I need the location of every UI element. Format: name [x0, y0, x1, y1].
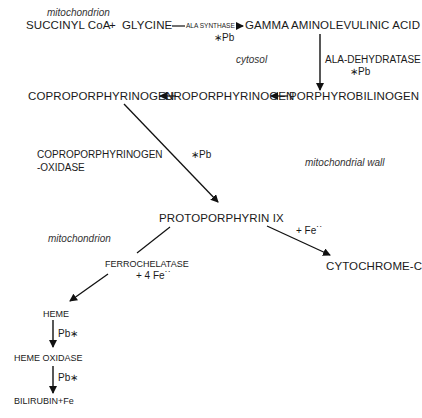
arrow-ferrochelatase-lower — [70, 274, 108, 301]
enzyme-copro-oxidase-line2: -OXIDASE — [37, 163, 85, 173]
inhibitor-ala-dehydratase: ∗Pb — [350, 67, 370, 77]
label-mitochondrion-top: mitochondrion — [47, 8, 110, 18]
plus-sign: + — [109, 20, 116, 32]
label-mitochondrial-wall: mitochondrial wall — [305, 158, 384, 168]
node-porphobilinogen: PORPHYROBILINOGEN — [289, 91, 419, 103]
cofactor-ferrochelatase-fe: + 4 Fe˙˙ — [136, 271, 171, 281]
node-heme: HEME — [43, 310, 69, 319]
label-cytosol: cytosol — [236, 55, 267, 65]
enzyme-copro-oxidase-line1: COPROPORPHYRINOGEN — [37, 150, 163, 160]
node-coproporphyrinogen: COPROPORPHYRINOGEN — [28, 91, 174, 103]
node-protoporphyrin-ix: PROTOPORPHYRIN IX — [159, 213, 284, 225]
arrow-ferrochelatase-upper — [137, 227, 170, 253]
node-ala: GAMMA AMINOLEVULINIC ACID — [245, 20, 420, 32]
node-cytochrome-c: CYTOCHROME-C — [326, 261, 422, 273]
inhibitor-oxidase-step: Pb∗ — [58, 373, 78, 383]
inhibitor-copro-oxidase: ∗Pb — [191, 150, 211, 160]
node-heme-oxidase: HEME OXIDASE — [14, 354, 83, 363]
inhibitor-heme-step: Pb∗ — [58, 329, 78, 339]
node-succinyl-coa: SUCCINYL CoA — [26, 20, 111, 32]
node-uroporphyrinogen: UROPORPHYRINOGEN — [165, 91, 294, 103]
inhibitor-ala-synthase: ∗Pb — [214, 33, 234, 43]
label-mitochondrion-bottom: mitochondrion — [48, 234, 111, 244]
node-glycine: GLYCINE — [122, 20, 172, 32]
enzyme-ala-dehydratase: ALA-DEHYDRATASE — [325, 55, 421, 65]
node-bilirubin: BILIRUBIN+Fe — [14, 397, 74, 406]
cofactor-cytochrome-fe: + Fe˙˙ — [296, 226, 323, 236]
enzyme-ferrochelatase: FERROCHELATASE — [105, 260, 189, 269]
enzyme-ala-synthase: ALA SYNTHASE — [186, 23, 235, 30]
